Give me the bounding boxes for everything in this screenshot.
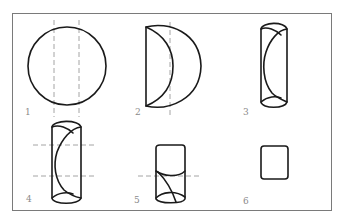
- step-label-4: 4: [26, 195, 32, 204]
- step-6-final-square: [261, 146, 288, 179]
- step-2-half-fold: [146, 22, 201, 118]
- step-5-short-roll: [138, 145, 199, 203]
- folding-diagram: [0, 0, 346, 222]
- step-label-6: 6: [243, 197, 249, 206]
- step-label-3: 3: [243, 108, 249, 117]
- step-label-2: 2: [135, 108, 141, 117]
- step-label-1: 1: [25, 108, 31, 117]
- step-label-5: 5: [134, 196, 140, 205]
- step-4-roll: [33, 121, 94, 203]
- step-3-roll: [261, 23, 287, 107]
- step-1-circle: [28, 20, 106, 117]
